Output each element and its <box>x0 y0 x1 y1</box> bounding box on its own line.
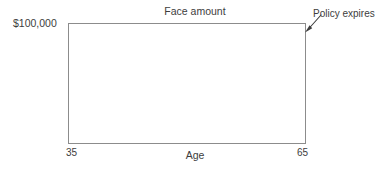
chart-canvas: Face amount $100,000 35 65 Age Policy ex… <box>0 0 390 169</box>
x-axis-title: Age <box>0 149 390 161</box>
down-left-arrow-icon <box>296 12 330 38</box>
face-amount-block <box>68 23 306 144</box>
y-axis-value-label: $100,000 <box>13 17 57 29</box>
